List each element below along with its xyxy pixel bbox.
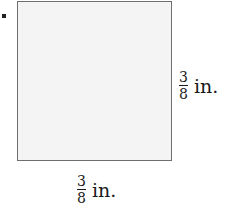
- fraction-bottom: 3 8: [76, 174, 87, 205]
- fraction-denominator: 8: [179, 86, 188, 101]
- side-label-bottom: 3 8 in.: [76, 174, 116, 205]
- unit-label: in.: [194, 75, 218, 97]
- square-shape: [17, 1, 172, 161]
- side-label-right: 3 8 in.: [178, 70, 218, 101]
- bullet-marker: [2, 14, 6, 18]
- fraction-numerator: 3: [76, 174, 87, 189]
- fraction-right: 3 8: [178, 70, 189, 101]
- unit-label: in.: [92, 179, 116, 201]
- fraction-numerator: 3: [178, 70, 189, 85]
- fraction-denominator: 8: [77, 190, 86, 205]
